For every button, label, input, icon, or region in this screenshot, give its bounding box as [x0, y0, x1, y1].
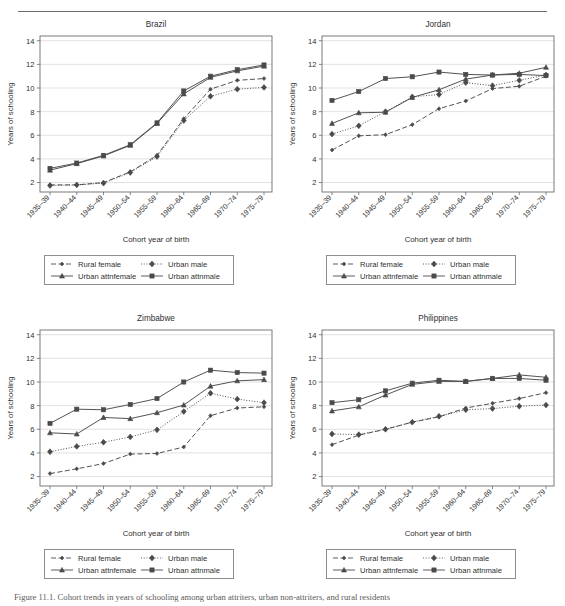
svg-text:10: 10 [26, 378, 34, 387]
legend-item-label: Urban male [447, 260, 489, 269]
svg-text:4: 4 [30, 449, 34, 458]
legend-key-icon [49, 270, 75, 282]
svg-text:1975–79: 1975–79 [239, 487, 266, 514]
svg-text:6: 6 [312, 131, 316, 140]
legend-row: Rural femaleUrban male [331, 258, 511, 270]
svg-text:1975–79: 1975–79 [521, 193, 548, 220]
legend-item-label: Urban attnmale [165, 566, 220, 575]
chart-legend: Rural femaleUrban maleUrban attnfemaleUr… [44, 549, 234, 579]
svg-text:1935–39: 1935–39 [25, 193, 52, 220]
legend-key-icon [421, 564, 447, 576]
svg-text:Brazil: Brazil [146, 20, 167, 29]
svg-text:1970–74: 1970–74 [494, 193, 521, 220]
legend-key-icon [331, 564, 357, 576]
svg-text:4: 4 [30, 155, 34, 164]
legend-item-label: Rural female [357, 260, 403, 269]
svg-text:8: 8 [312, 108, 316, 117]
legend-item-urban-attnmale: Urban attnmale [421, 270, 511, 282]
legend-row: Rural femaleUrban male [49, 258, 229, 270]
svg-text:12: 12 [26, 354, 34, 363]
svg-text:Zimbabwe: Zimbabwe [137, 314, 175, 323]
legend-key-icon [49, 564, 75, 576]
legend-item-urban-attnfemale: Urban attnfemale [49, 270, 139, 282]
svg-text:Years of schooling: Years of schooling [288, 376, 297, 439]
svg-text:12: 12 [308, 354, 316, 363]
svg-text:14: 14 [308, 37, 316, 46]
figure-caption: Figure 11.1. Cohort trends in years of s… [14, 592, 559, 603]
svg-text:2: 2 [312, 472, 316, 481]
svg-text:1950–54: 1950–54 [105, 487, 132, 514]
svg-text:1955–59: 1955–59 [132, 193, 159, 220]
svg-text:1970–74: 1970–74 [212, 193, 239, 220]
svg-text:1970–74: 1970–74 [494, 487, 521, 514]
svg-text:2: 2 [30, 472, 34, 481]
svg-text:10: 10 [26, 84, 34, 93]
legend-item-rural-female: Rural female [331, 552, 421, 564]
legend-item-label: Rural female [75, 260, 121, 269]
legend-item-urban-male: Urban male [139, 258, 229, 270]
svg-text:Cohort year of birth: Cohort year of birth [405, 235, 472, 244]
svg-text:1965–69: 1965–69 [467, 487, 494, 514]
legend-item-label: Urban attnmale [447, 566, 502, 575]
legend-item-urban-male: Urban male [421, 552, 511, 564]
legend-key-icon [139, 270, 165, 282]
svg-text:8: 8 [312, 402, 316, 411]
svg-text:1955–59: 1955–59 [132, 487, 159, 514]
chart-legend: Rural femaleUrban maleUrban attnfemaleUr… [326, 255, 516, 285]
chart-grid: Brazil24681012141935–391940–441945–49195… [0, 14, 565, 592]
legend-item-label: Urban male [447, 554, 489, 563]
svg-text:1935–39: 1935–39 [25, 487, 52, 514]
legend-row: Urban attnfemaleUrban attnmale [331, 564, 511, 576]
legend-key-icon [331, 258, 357, 270]
legend-item-label: Rural female [75, 554, 121, 563]
svg-text:1960–64: 1960–64 [440, 193, 467, 220]
legend-item-label: Urban attnfemale [75, 566, 136, 575]
legend-item-label: Urban male [165, 554, 207, 563]
legend-item-label: Urban attnmale [165, 272, 220, 281]
legend-item-label: Urban attnfemale [357, 566, 418, 575]
legend-key-icon [139, 258, 165, 270]
svg-text:Philippines: Philippines [418, 314, 458, 323]
legend-key-icon [139, 564, 165, 576]
svg-text:Years of schooling: Years of schooling [6, 82, 15, 145]
chart-panel-jordan: Jordan24681012141935–391940–441945–49195… [282, 14, 565, 308]
svg-text:1955–59: 1955–59 [414, 487, 441, 514]
legend-key-icon [421, 270, 447, 282]
legend-item-urban-attnmale: Urban attnmale [139, 564, 229, 576]
legend-row: Urban attnfemaleUrban attnmale [49, 564, 229, 576]
svg-text:1935–39: 1935–39 [307, 193, 334, 220]
legend-item-urban-attnfemale: Urban attnfemale [49, 564, 139, 576]
svg-text:1960–64: 1960–64 [158, 193, 185, 220]
svg-text:2: 2 [30, 178, 34, 187]
svg-text:1945–49: 1945–49 [360, 487, 387, 514]
svg-text:2: 2 [312, 178, 316, 187]
svg-text:Cohort year of birth: Cohort year of birth [123, 235, 190, 244]
legend-key-icon [331, 270, 357, 282]
chart-legend: Rural femaleUrban maleUrban attnfemaleUr… [44, 255, 234, 285]
svg-text:10: 10 [308, 378, 316, 387]
svg-text:6: 6 [30, 425, 34, 434]
svg-text:12: 12 [26, 60, 34, 69]
legend-key-icon [49, 552, 75, 564]
svg-text:1950–54: 1950–54 [387, 487, 414, 514]
svg-text:Years of schooling: Years of schooling [288, 82, 297, 145]
svg-text:1955–59: 1955–59 [414, 193, 441, 220]
svg-text:1965–69: 1965–69 [185, 487, 212, 514]
legend-item-urban-attnmale: Urban attnmale [421, 564, 511, 576]
legend-key-icon [331, 552, 357, 564]
legend-row: Rural femaleUrban male [49, 552, 229, 564]
header-rule [18, 11, 547, 12]
legend-key-icon [421, 258, 447, 270]
chart-panel-philippines: Philippines24681012141935–391940–441945–… [282, 308, 565, 602]
legend-key-icon [139, 552, 165, 564]
svg-text:14: 14 [26, 331, 34, 340]
legend-item-label: Urban male [165, 260, 207, 269]
svg-text:1965–69: 1965–69 [185, 193, 212, 220]
legend-key-icon [421, 552, 447, 564]
svg-text:6: 6 [312, 425, 316, 434]
legend-item-urban-attnfemale: Urban attnfemale [331, 564, 421, 576]
legend-item-urban-male: Urban male [421, 258, 511, 270]
legend-row: Urban attnfemaleUrban attnmale [331, 270, 511, 282]
svg-text:1960–64: 1960–64 [158, 487, 185, 514]
svg-text:Cohort year of birth: Cohort year of birth [123, 529, 190, 538]
